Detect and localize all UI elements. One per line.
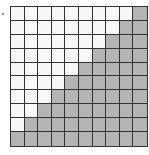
grid-cell-shaded xyxy=(106,76,120,90)
grid-cell-shaded xyxy=(106,104,120,118)
grid-cell xyxy=(120,7,134,21)
grid-cell-shaded xyxy=(93,49,107,63)
grid-cell xyxy=(25,35,39,49)
grid-cell xyxy=(25,104,39,118)
grid-cell-shaded xyxy=(120,49,134,63)
grid-cell-shaded xyxy=(79,118,93,132)
grid-cell xyxy=(38,21,52,35)
grid-cell-shaded xyxy=(93,118,107,132)
grid-cell-shaded xyxy=(93,76,107,90)
grid-cell-shaded xyxy=(133,21,147,35)
grid-cell xyxy=(11,7,25,21)
grid-cell xyxy=(79,35,93,49)
grid-cell-shaded xyxy=(133,63,147,77)
grid-cell xyxy=(52,63,66,77)
grid-cell-shaded xyxy=(25,118,39,132)
grid-cell xyxy=(106,21,120,35)
grid-cell-shaded xyxy=(133,35,147,49)
grid-cell xyxy=(93,35,107,49)
grid-cell xyxy=(38,49,52,63)
grid-cell xyxy=(38,90,52,104)
grid-cell xyxy=(79,21,93,35)
grid-cell-shaded xyxy=(106,90,120,104)
grid-cell xyxy=(25,90,39,104)
grid-cell xyxy=(52,7,66,21)
grid-cell-shaded xyxy=(106,132,120,146)
grid-cell-shaded xyxy=(133,7,147,21)
grid-cell xyxy=(11,21,25,35)
grid-cell xyxy=(65,35,79,49)
grid-cell xyxy=(52,49,66,63)
grid-cell-shaded xyxy=(93,90,107,104)
grid-cell-shaded xyxy=(120,90,134,104)
grid-cell xyxy=(38,7,52,21)
grid-cell xyxy=(65,21,79,35)
grid-cell xyxy=(65,49,79,63)
grid-cell xyxy=(79,7,93,21)
grid-cell xyxy=(11,35,25,49)
grid-cell-shaded xyxy=(79,104,93,118)
grid-cell-shaded xyxy=(133,76,147,90)
grid-cell-shaded xyxy=(120,35,134,49)
grid-cell xyxy=(25,63,39,77)
grid-cell-shaded xyxy=(120,132,134,146)
grid-cell xyxy=(93,21,107,35)
grid-cell-shaded xyxy=(65,104,79,118)
grid-cell-shaded xyxy=(38,132,52,146)
grid-cell xyxy=(25,7,39,21)
grid-cell xyxy=(25,76,39,90)
bullet-dot xyxy=(2,13,4,15)
grid-cell xyxy=(52,76,66,90)
grid-cell-shaded xyxy=(25,132,39,146)
grid-cell-shaded xyxy=(133,90,147,104)
grid-cell-shaded xyxy=(65,90,79,104)
grid-cell xyxy=(79,49,93,63)
grid-cell xyxy=(93,7,107,21)
grid-cell-shaded xyxy=(93,104,107,118)
grid-cell-shaded xyxy=(120,21,134,35)
grid-cell-shaded xyxy=(106,35,120,49)
grid-cell-shaded xyxy=(93,132,107,146)
grid-cell-shaded xyxy=(52,104,66,118)
grid-cell-shaded xyxy=(106,63,120,77)
grid-cell xyxy=(106,7,120,21)
grid-cell xyxy=(52,35,66,49)
grid-cell xyxy=(25,21,39,35)
grid-cell xyxy=(65,63,79,77)
hundred-grid xyxy=(10,6,148,147)
grid-cell-shaded xyxy=(120,76,134,90)
grid-cell xyxy=(11,63,25,77)
grid-cell xyxy=(11,76,25,90)
grid-cell xyxy=(25,49,39,63)
grid-cell-shaded xyxy=(52,118,66,132)
grid-cell-shaded xyxy=(38,104,52,118)
grid-cell-shaded xyxy=(52,132,66,146)
grid-cell xyxy=(38,63,52,77)
grid-cell xyxy=(38,76,52,90)
grid-cell-shaded xyxy=(52,90,66,104)
grid-cell-shaded xyxy=(11,132,25,146)
grid-cell-shaded xyxy=(120,118,134,132)
grid-cell-shaded xyxy=(133,118,147,132)
grid-cell-shaded xyxy=(79,76,93,90)
grid-cell xyxy=(52,21,66,35)
grid-cell-shaded xyxy=(65,118,79,132)
grid-cell-shaded xyxy=(106,49,120,63)
grid-cell-shaded xyxy=(133,104,147,118)
grid-cell xyxy=(38,35,52,49)
grid-cell-shaded xyxy=(120,63,134,77)
grid-cell-shaded xyxy=(93,63,107,77)
grid-cell-shaded xyxy=(106,118,120,132)
grid-cell-shaded xyxy=(79,132,93,146)
grid-cell-shaded xyxy=(133,49,147,63)
grid-cell xyxy=(11,104,25,118)
grid-cell xyxy=(65,7,79,21)
grid-cell-shaded xyxy=(38,118,52,132)
grid-cell xyxy=(11,49,25,63)
grid-cell-shaded xyxy=(120,104,134,118)
grid-cell xyxy=(11,90,25,104)
grid-cell-shaded xyxy=(65,76,79,90)
grid-cell-shaded xyxy=(79,63,93,77)
grid-cell-shaded xyxy=(65,132,79,146)
grid-cell xyxy=(11,118,25,132)
